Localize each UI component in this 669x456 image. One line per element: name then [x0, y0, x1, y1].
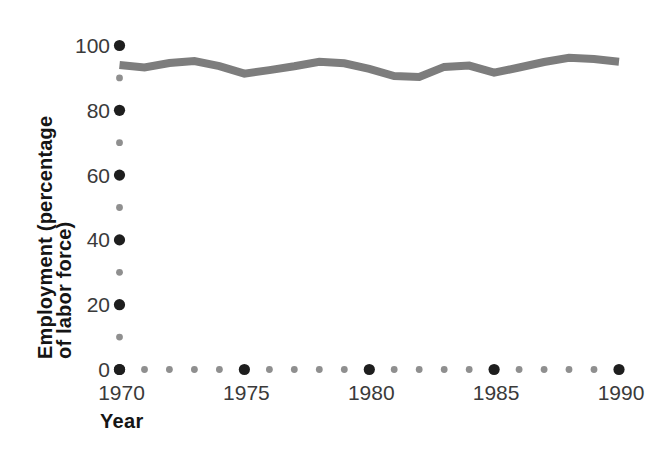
employment-line — [120, 58, 620, 77]
x-axis-minor-tick-dot — [416, 366, 423, 373]
x-axis-minor-tick-dot — [291, 366, 298, 373]
y-axis-minor-tick-dot — [116, 204, 123, 211]
y-axis-major-tick-dot — [114, 170, 125, 181]
y-axis-major-tick-dot — [114, 234, 125, 245]
y-tick-label: 40 — [87, 228, 110, 251]
x-axis-minor-tick-dot — [441, 366, 448, 373]
y-axis-minor-tick-dot — [116, 75, 123, 82]
y-tick-label: 20 — [87, 293, 110, 316]
x-axis-minor-tick-dot — [541, 366, 548, 373]
x-axis-minor-tick-dot — [316, 366, 323, 373]
x-axis-minor-tick-dot — [141, 366, 148, 373]
x-axis-minor-tick-dot — [166, 366, 173, 373]
y-axis-title-line2: of labor force) — [55, 119, 74, 359]
x-axis-major-tick-dot — [613, 364, 624, 375]
x-axis-minor-tick-dot — [216, 366, 223, 373]
y-axis-title: Employment (percentage of labor force) — [36, 119, 74, 359]
x-axis-minor-tick-dot — [191, 366, 198, 373]
y-tick-label: 60 — [87, 164, 110, 187]
y-axis-minor-tick-dot — [116, 139, 123, 146]
y-tick-label: 80 — [87, 99, 110, 122]
x-tick-label: 1980 — [348, 381, 395, 404]
y-axis-major-tick-dot — [114, 40, 125, 51]
employment-line-chart: 02040608010019701975198019851990 — [0, 0, 669, 456]
y-tick-label: 100 — [75, 34, 110, 57]
x-tick-label: 1985 — [473, 381, 520, 404]
y-axis-major-tick-dot — [114, 299, 125, 310]
y-axis-minor-tick-dot — [116, 334, 123, 341]
x-axis-major-tick-dot — [239, 364, 250, 375]
x-axis-minor-tick-dot — [341, 366, 348, 373]
x-axis-minor-tick-dot — [591, 366, 598, 373]
y-axis-minor-tick-dot — [116, 269, 123, 276]
x-axis-minor-tick-dot — [466, 366, 473, 373]
x-axis-title: Year — [100, 410, 143, 433]
x-axis-minor-tick-dot — [391, 366, 398, 373]
x-axis-minor-tick-dot — [516, 366, 523, 373]
x-axis-minor-tick-dot — [566, 366, 573, 373]
x-axis-major-tick-dot — [364, 364, 375, 375]
x-axis-major-tick-dot — [114, 364, 125, 375]
x-axis-minor-tick-dot — [266, 366, 273, 373]
y-tick-label: 0 — [98, 358, 110, 381]
x-tick-label: 1990 — [598, 381, 645, 404]
x-tick-label: 1975 — [223, 381, 270, 404]
x-tick-label: 1970 — [98, 381, 145, 404]
figure-employment-chart: 02040608010019701975198019851990 Employm… — [0, 0, 669, 456]
x-axis-major-tick-dot — [489, 364, 500, 375]
y-axis-major-tick-dot — [114, 105, 125, 116]
